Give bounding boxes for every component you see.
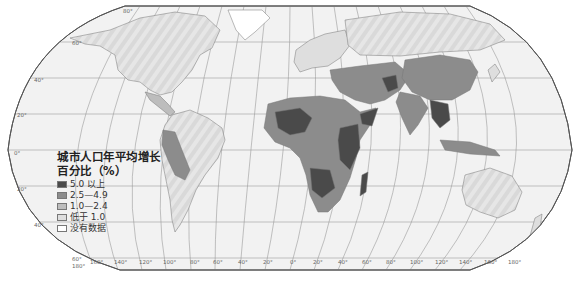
legend-item-high: 5.0 以上 [57, 179, 207, 190]
longitude-label: 180° [72, 263, 85, 269]
legend-item-medium: 1.0—2.4 [57, 201, 207, 212]
longitude-label: 160° [90, 259, 103, 265]
legend-label: 5.0 以上 [70, 179, 105, 190]
latitude-label: 0° [14, 150, 20, 156]
legend-label: 1.0—2.4 [70, 201, 108, 212]
latitude-label: 40° [34, 222, 44, 228]
latitude-label: 60° [72, 40, 82, 46]
longitude-label: 60° [362, 259, 372, 265]
longitude-label: 120° [435, 259, 448, 265]
longitude-label: 40° [238, 259, 248, 265]
latitude-label: 80° [123, 8, 133, 14]
legend-item-medium-high: 2.5—4.9 [57, 190, 207, 201]
latitude-label: 60° [72, 256, 82, 262]
longitude-label: 180° [508, 259, 521, 265]
legend-swatch-medium [57, 203, 67, 210]
longitude-label: 20° [313, 259, 323, 265]
latitude-label: 20° [17, 112, 27, 118]
legend-item-no-data: 没有数据 [57, 223, 207, 234]
longitude-label: 60° [213, 259, 223, 265]
longitude-label: 80° [386, 259, 396, 265]
longitude-label: 140° [114, 259, 127, 265]
longitude-label: 40° [338, 259, 348, 265]
legend-label: 低于 1.0 [70, 212, 105, 223]
map-legend: 城市人口年平均增长 百分比（%） 5.0 以上 2.5—4.9 1.0—2.4 … [57, 150, 207, 234]
world-map [0, 0, 579, 298]
legend-swatch-no-data [57, 225, 67, 232]
longitude-label: 100° [410, 259, 423, 265]
latitude-label: 40° [34, 77, 44, 83]
longitude-label: 120° [139, 259, 152, 265]
legend-swatch-medium-high [57, 192, 67, 199]
longitude-label: 20° [263, 259, 273, 265]
legend-swatch-low [57, 214, 67, 221]
longitude-label: 0° [290, 259, 296, 265]
longitude-label: 140° [459, 259, 472, 265]
longitude-label: 100° [163, 259, 176, 265]
legend-title-line2: 百分比（%） [57, 164, 207, 178]
legend-item-low: 低于 1.0 [57, 212, 207, 223]
legend-label: 2.5—4.9 [70, 190, 108, 201]
legend-swatch-high [57, 181, 67, 188]
legend-title-line1: 城市人口年平均增长 [57, 150, 207, 164]
legend-label: 没有数据 [70, 223, 106, 234]
longitude-label: 80° [190, 259, 200, 265]
longitude-label: 160° [484, 259, 497, 265]
latitude-label: 20° [17, 186, 27, 192]
